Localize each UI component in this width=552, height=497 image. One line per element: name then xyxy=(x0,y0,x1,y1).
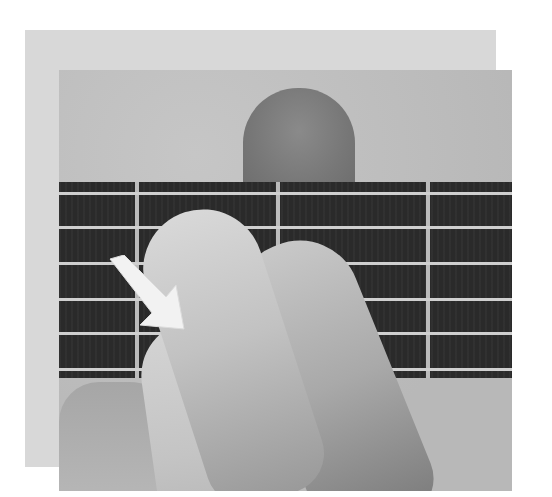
guitar-photo xyxy=(59,70,512,491)
arrow-pointer-icon xyxy=(104,255,194,335)
photo-frame xyxy=(25,30,496,467)
